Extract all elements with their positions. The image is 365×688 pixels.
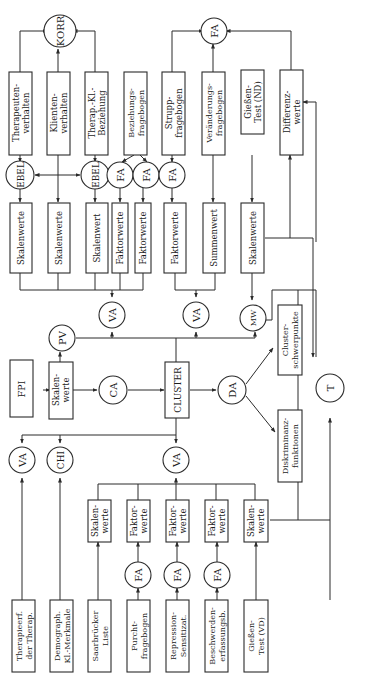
circle-va-top-left: VA xyxy=(99,302,125,328)
svg-text:Faktorwerte: Faktorwerte xyxy=(138,212,148,265)
svg-text:Faktor-: Faktor- xyxy=(168,505,178,536)
box-veraenderungsfragebogen: Veränderungs- fragebogen xyxy=(202,72,225,155)
svg-text:Faktor-: Faktor- xyxy=(207,505,217,536)
svg-text:T: T xyxy=(325,384,336,391)
svg-text:Skalenwerte: Skalenwerte xyxy=(248,211,258,265)
box-therapieerfahrung: Therapieerf. der Therap. xyxy=(12,600,35,672)
svg-text:verhalten: verhalten xyxy=(21,92,31,135)
svg-text:Diskriminanz-: Diskriminanz- xyxy=(281,417,290,474)
svg-text:Therapieerf.: Therapieerf. xyxy=(15,611,24,661)
svg-text:Test (ND): Test (ND) xyxy=(253,81,263,122)
svg-text:verhalten: verhalten xyxy=(59,92,69,135)
circle-korr: KORR xyxy=(44,15,76,47)
svg-text:FA: FA xyxy=(167,168,178,182)
svg-text:Veränderungs-: Veränderungs- xyxy=(205,83,214,144)
svg-text:CLUSTER: CLUSTER xyxy=(173,367,183,413)
box-skalenwert-3: Skalenwert xyxy=(86,203,108,273)
svg-text:werte: werte xyxy=(139,509,149,534)
svg-text:fragebogen: fragebogen xyxy=(137,90,146,136)
circle-ebel-2: EBEL xyxy=(81,161,109,189)
svg-text:FA: FA xyxy=(133,568,144,582)
box-faktorwerte-furcht: Faktor- werte xyxy=(127,500,150,542)
svg-text:FA: FA xyxy=(212,568,223,582)
box-skalenwerte-nd: Skalenwerte xyxy=(241,203,264,273)
svg-text:Faktorwerte: Faktorwerte xyxy=(170,212,180,265)
svg-text:Repression-: Repression- xyxy=(169,612,178,660)
box-furchtfragebogen: Furcht- fragebogen xyxy=(127,600,150,672)
box-therap-kl-beziehung: Therap.-Kl.- Beziehung xyxy=(85,72,108,155)
svg-text:Gießen-: Gießen- xyxy=(243,85,253,119)
box-skalenwerte-2: Skalenwerte xyxy=(48,203,70,273)
svg-text:Skalenwert: Skalenwert xyxy=(92,213,102,263)
box-saarbruecker-liste: Saarbrücker Liste xyxy=(88,600,111,672)
box-faktorwerte-2: Faktorwerte xyxy=(135,203,151,273)
svg-text:VA: VA xyxy=(171,452,182,468)
svg-text:Strupp-: Strupp- xyxy=(164,97,174,130)
svg-text:MW: MW xyxy=(249,309,258,326)
svg-text:FPI: FPI xyxy=(16,380,27,397)
svg-text:PV: PV xyxy=(57,330,68,345)
svg-text:KORR: KORR xyxy=(55,15,66,46)
circle-fa-repression: FA xyxy=(164,562,190,588)
svg-text:Beschwerden-: Beschwerden- xyxy=(208,607,217,665)
svg-text:Skalenwerte: Skalenwerte xyxy=(16,211,26,265)
svg-text:Skalen-: Skalen- xyxy=(246,505,256,537)
box-clusterschwerpunkte: Cluster- schwerpunkte xyxy=(278,305,302,375)
svg-text:VA: VA xyxy=(107,307,118,323)
svg-text:werte: werte xyxy=(292,100,302,125)
svg-text:CHI: CHI xyxy=(56,450,66,469)
box-faktorwerte-1: Faktorwerte xyxy=(112,203,128,273)
svg-text:DA: DA xyxy=(227,382,238,398)
svg-text:werte: werte xyxy=(178,509,188,534)
svg-text:erfassungsb.: erfassungsb. xyxy=(218,610,227,662)
svg-text:Faktorwerte: Faktorwerte xyxy=(115,212,125,265)
box-fpi: FPI xyxy=(10,360,33,417)
circle-t: T xyxy=(316,374,344,402)
circle-va-bottom-1: VA xyxy=(9,447,35,473)
svg-text:Beziehungs-: Beziehungs- xyxy=(127,88,136,138)
box-therapeutenverhalten: Therapeuten- verhalten xyxy=(9,72,32,155)
circle-va-top-right: VA xyxy=(183,302,209,328)
box-struppfragebogen: Strupp- fragebogen xyxy=(162,72,185,155)
svg-text:Liste: Liste xyxy=(101,626,110,646)
svg-text:werte: werte xyxy=(61,378,71,403)
svg-text:Cluster-: Cluster- xyxy=(281,324,290,357)
box-klientenverhalten: Klienten- verhalten xyxy=(47,72,70,155)
svg-text:CA: CA xyxy=(108,382,119,398)
circle-ebel-1: EBEL xyxy=(6,161,34,189)
svg-text:Skalen-: Skalen- xyxy=(90,505,100,537)
svg-text:Beziehung: Beziehung xyxy=(97,90,107,136)
box-beschwerdenerfassungsbogen: Beschwerden- erfassungsb. xyxy=(205,600,228,672)
svg-text:Skalenwerte: Skalenwerte xyxy=(54,211,64,265)
box-differenzwerte: Differenz- werte xyxy=(280,70,303,155)
box-summenwert: Summenwert xyxy=(203,203,225,273)
box-skalenwerte-saar: Skalen- werte xyxy=(88,500,111,542)
svg-text:Kl.-Merkmale: Kl.-Merkmale xyxy=(63,608,72,663)
svg-text:Klienten-: Klienten- xyxy=(49,93,59,132)
svg-text:Therap.-Kl.-: Therap.-Kl.- xyxy=(87,87,97,138)
svg-text:Skalen-: Skalen- xyxy=(51,374,61,406)
svg-text:EBEL: EBEL xyxy=(16,162,26,188)
svg-text:fragebogen: fragebogen xyxy=(174,88,184,138)
svg-text:werte: werte xyxy=(100,509,110,534)
svg-text:fragebogen: fragebogen xyxy=(140,613,149,659)
box-skalenwerte-fpi: Skalen- werte xyxy=(49,362,73,419)
circle-da: DA xyxy=(218,376,246,404)
svg-text:FA: FA xyxy=(141,168,152,182)
box-faktorwerte-repression: Faktor- werte xyxy=(166,500,189,542)
circle-fa-bez-1: FA xyxy=(107,162,133,188)
circle-fa-top: FA xyxy=(201,18,227,44)
svg-text:fragebogen: fragebogen xyxy=(215,90,224,136)
analysis-flow-diagram: KORR FA EBEL EBEL FA FA FA VA VA PV MW xyxy=(0,0,365,688)
svg-text:Gießen-: Gießen- xyxy=(247,620,256,652)
svg-text:EBEL: EBEL xyxy=(91,162,101,188)
box-giessen-test-vd: Gießen- Test (VD) xyxy=(244,600,268,672)
svg-text:der Therap.: der Therap. xyxy=(25,612,34,660)
box-skalenwerte-1: Skalenwerte xyxy=(10,203,32,273)
circle-va-bottom-center: VA xyxy=(163,447,189,473)
svg-text:Saarbrücker: Saarbrücker xyxy=(91,610,100,661)
box-skalenwerte-vd: Skalen- werte xyxy=(244,500,268,542)
svg-text:VA: VA xyxy=(191,307,202,323)
svg-text:Faktor-: Faktor- xyxy=(129,505,139,536)
circle-fa-strupp: FA xyxy=(159,162,185,188)
